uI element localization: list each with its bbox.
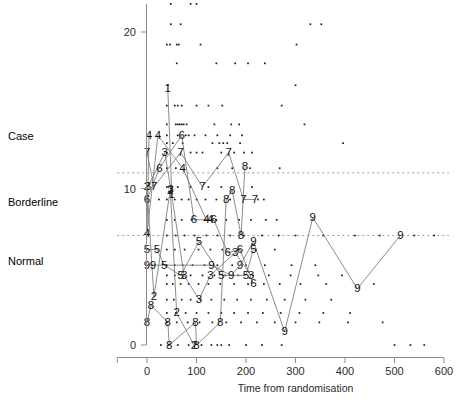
- background-point: [315, 264, 317, 266]
- background-point: [183, 124, 185, 126]
- data-point-marker-7: 7: [252, 193, 258, 205]
- background-point: [394, 344, 396, 346]
- background-point: [212, 322, 214, 324]
- data-point-marker-9: 9: [354, 282, 360, 294]
- background-point: [354, 235, 356, 237]
- background-point: [219, 283, 221, 285]
- background-point: [177, 105, 179, 107]
- data-point-marker-9: 9: [228, 269, 234, 281]
- background-point: [211, 299, 213, 301]
- background-point: [216, 134, 218, 136]
- data-point-marker-9: 9: [250, 235, 256, 247]
- background-point: [166, 235, 168, 237]
- background-point: [169, 44, 171, 46]
- data-point-marker-5: 5: [218, 269, 224, 281]
- background-point: [230, 124, 232, 126]
- data-point-marker-9: 9: [150, 259, 156, 271]
- x-axis-tick-label: 0: [144, 365, 150, 377]
- background-point: [220, 186, 222, 188]
- data-point-marker-6: 6: [191, 213, 197, 225]
- background-point: [184, 249, 186, 251]
- background-point: [166, 124, 168, 126]
- data-point-marker-4: 4: [179, 162, 186, 174]
- background-point: [199, 322, 201, 324]
- data-point-marker-6: 6: [156, 162, 162, 174]
- background-point: [280, 312, 282, 314]
- background-point: [166, 199, 168, 201]
- background-point: [264, 264, 266, 266]
- background-point: [274, 322, 276, 324]
- background-point: [194, 134, 196, 136]
- background-point: [206, 235, 208, 237]
- x-axis-tick-label: 500: [385, 365, 403, 377]
- background-point: [176, 63, 178, 65]
- background-point: [202, 152, 204, 154]
- background-point: [166, 142, 168, 144]
- background-point: [295, 322, 297, 324]
- data-point-marker-5: 5: [177, 269, 183, 281]
- x-axis-tick-label: 100: [187, 365, 205, 377]
- background-point: [214, 124, 216, 126]
- background-point: [190, 275, 192, 277]
- background-point: [322, 312, 324, 314]
- data-point-marker-8: 8: [148, 299, 154, 311]
- data-point-marker-3: 3: [196, 293, 202, 305]
- background-point: [208, 312, 210, 314]
- background-point: [305, 299, 307, 301]
- data-point-marker-7: 7: [225, 146, 231, 158]
- background-point: [177, 344, 179, 346]
- background-point: [185, 134, 187, 136]
- background-point: [225, 322, 227, 324]
- background-point: [423, 344, 425, 346]
- background-point: [220, 344, 222, 346]
- background-point: [229, 235, 231, 237]
- background-point: [251, 152, 253, 154]
- background-point: [379, 235, 381, 237]
- background-point: [190, 152, 192, 154]
- background-point: [229, 199, 231, 201]
- background-point: [263, 199, 265, 201]
- background-point: [179, 124, 181, 126]
- background-point: [181, 299, 183, 301]
- background-point: [166, 44, 168, 46]
- background-point: [166, 299, 168, 301]
- background-point: [223, 299, 225, 301]
- data-point-marker-8: 8: [165, 316, 171, 328]
- background-point: [247, 312, 249, 314]
- background-point: [278, 235, 280, 237]
- background-point: [263, 283, 265, 285]
- background-point: [341, 275, 343, 277]
- background-point: [247, 63, 249, 65]
- background-point: [196, 3, 198, 5]
- background-point: [220, 152, 222, 154]
- background-point: [190, 3, 192, 5]
- background-point: [181, 105, 183, 107]
- background-point: [174, 249, 176, 251]
- background-point: [261, 344, 263, 346]
- background-point: [290, 275, 292, 277]
- data-point-marker-7: 7: [240, 193, 246, 205]
- background-point: [310, 23, 312, 25]
- data-point-marker-8: 8: [238, 229, 244, 241]
- background-point: [202, 275, 204, 277]
- background-point: [172, 142, 174, 144]
- data-point-marker-5: 5: [243, 269, 249, 281]
- background-point: [175, 167, 177, 169]
- background-point: [266, 299, 268, 301]
- background-point: [177, 124, 179, 126]
- background-point: [198, 249, 200, 251]
- background-point: [268, 275, 270, 277]
- data-point-marker-3: 3: [162, 146, 168, 158]
- data-point-marker-8: 8: [229, 184, 235, 196]
- background-point: [208, 283, 210, 285]
- background-point: [211, 344, 213, 346]
- x-axis-tick-label: 400: [336, 365, 354, 377]
- background-point: [304, 124, 306, 126]
- background-point: [185, 312, 187, 314]
- background-point: [175, 235, 177, 237]
- background-point: [284, 299, 286, 301]
- background-point: [173, 299, 175, 301]
- background-point: [249, 167, 251, 169]
- data-point-marker-8: 8: [193, 339, 199, 351]
- background-point: [226, 142, 228, 144]
